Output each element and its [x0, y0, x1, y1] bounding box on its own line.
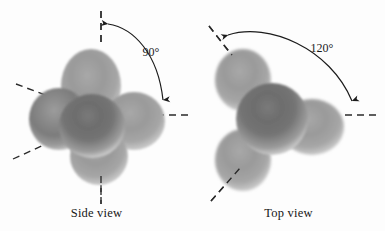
- angle-label-90: 90°: [143, 45, 160, 59]
- figure-canvas: 90°: [0, 0, 385, 231]
- top-view-panel: 120°: [209, 26, 381, 201]
- caption-side-view: Side view: [0, 206, 193, 221]
- caption-top-view: Top view: [192, 206, 385, 221]
- molecular-geometry-figure: 90°: [0, 0, 385, 231]
- angle-label-120: 120°: [311, 41, 334, 55]
- top-view-spheres: [215, 49, 344, 191]
- sphere-central-atom-top: [236, 83, 308, 155]
- side-view-panel: 90°: [13, 11, 190, 204]
- sphere-central-atom: [59, 94, 125, 158]
- side-view-spheres: [29, 49, 165, 185]
- axis-equatorial-upper-left-stub: [209, 26, 232, 55]
